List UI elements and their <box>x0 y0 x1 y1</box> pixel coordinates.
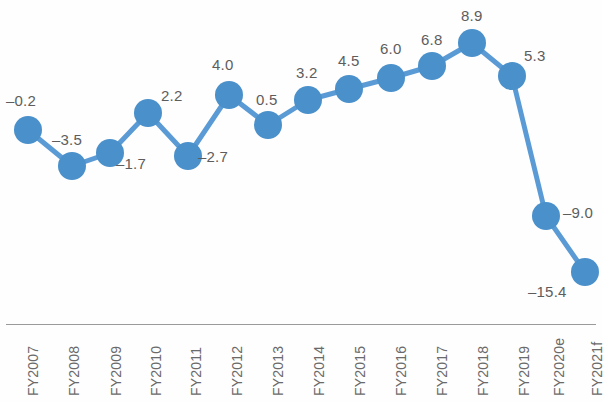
x-axis-tick-label: FY2018 <box>475 346 491 396</box>
data-value-label: 4.5 <box>338 52 359 69</box>
data-point-marker[interactable] <box>134 99 162 127</box>
x-axis-tick-label: FY2020e <box>551 338 567 396</box>
x-axis-tick-label: FY2021f <box>589 342 605 396</box>
data-value-label: –0.2 <box>6 92 36 109</box>
x-axis-tick-label: FY2012 <box>229 346 245 396</box>
x-axis-tick-label: FY2010 <box>148 346 164 396</box>
data-value-label: –3.5 <box>52 131 82 148</box>
data-point-marker[interactable] <box>418 52 446 80</box>
data-point-marker[interactable] <box>215 81 243 109</box>
data-point-marker[interactable] <box>58 152 86 180</box>
data-value-label: 3.2 <box>296 64 317 81</box>
x-axis-tick-label: FY2007 <box>25 346 41 396</box>
data-point-marker[interactable] <box>458 29 486 57</box>
data-value-label: 6.8 <box>421 31 442 48</box>
data-value-label: –15.4 <box>528 283 567 300</box>
data-point-marker[interactable] <box>335 75 363 103</box>
x-axis-tick-label: FY2009 <box>108 346 124 396</box>
x-axis-tick-label: FY2011 <box>188 347 204 396</box>
data-point-marker[interactable] <box>571 258 599 286</box>
data-point-marker[interactable] <box>14 116 42 144</box>
data-point-marker[interactable] <box>532 202 560 230</box>
data-value-label: 0.5 <box>256 91 277 108</box>
data-value-label: 8.9 <box>461 7 482 24</box>
x-axis-line <box>6 324 596 325</box>
data-point-marker[interactable] <box>254 111 282 139</box>
x-axis-tick-label: FY2013 <box>270 346 286 396</box>
data-value-label: 5.3 <box>524 47 545 64</box>
x-axis-tick-label: FY2008 <box>66 346 82 396</box>
x-axis-tick-label: FY2015 <box>352 346 368 396</box>
data-point-marker[interactable] <box>498 62 526 90</box>
data-point-marker[interactable] <box>294 86 322 114</box>
data-value-label: –2.7 <box>198 148 228 165</box>
x-axis-tick-label: FY2016 <box>393 346 409 396</box>
x-axis-tick-label: FY2019 <box>516 346 532 396</box>
data-value-label: –9.0 <box>563 204 593 221</box>
data-value-label: 2.2 <box>161 87 182 104</box>
data-value-label: 4.0 <box>212 56 233 73</box>
data-point-marker[interactable] <box>377 64 405 92</box>
data-value-label: 6.0 <box>380 40 401 57</box>
x-axis-tick-label: FY2014 <box>311 346 327 396</box>
data-value-label: –1.7 <box>116 155 146 172</box>
x-axis-tick-label: FY2017 <box>434 346 450 396</box>
